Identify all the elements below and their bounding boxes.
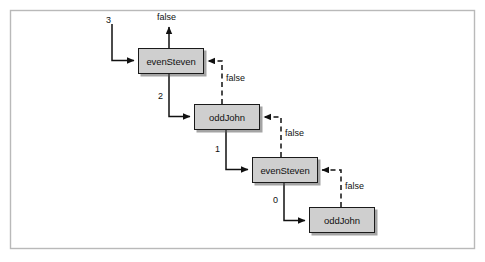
node-even-steven-1: evenSteven: [252, 157, 318, 183]
edge-return-false-3: [322, 170, 341, 207]
edge-call-2: [169, 74, 190, 117]
edge-label-call-0: 0: [273, 196, 278, 205]
edge-label-return-false-2: false: [285, 129, 304, 138]
edge-label-call-1: 1: [215, 145, 220, 154]
node-label: oddJohn: [209, 112, 245, 123]
figure-screenshot: evenSteven oddJohn evenSteven oddJohn 3 …: [0, 0, 485, 262]
edge-call-1: [226, 130, 248, 170]
edge-return-false-1: [208, 61, 222, 104]
node-odd-john-2: oddJohn: [194, 104, 260, 130]
edge-return-false-2: [264, 117, 281, 157]
edge-label-return-false-3: false: [345, 182, 364, 191]
node-odd-john-0: oddJohn: [309, 207, 375, 233]
node-label: evenSteven: [260, 165, 309, 176]
edge-label-entry-3: 3: [106, 16, 111, 25]
edge-entry-3: [112, 24, 134, 61]
node-label: oddJohn: [324, 215, 360, 226]
edge-call-0: [284, 183, 305, 221]
node-label: evenSteven: [146, 56, 195, 67]
edge-label-final-false: false: [157, 13, 176, 22]
edge-label-call-2: 2: [158, 92, 163, 101]
recursion-diagram-canvas: [0, 0, 485, 262]
node-even-steven-3: evenSteven: [138, 48, 204, 74]
edge-label-return-false-1: false: [226, 74, 245, 83]
